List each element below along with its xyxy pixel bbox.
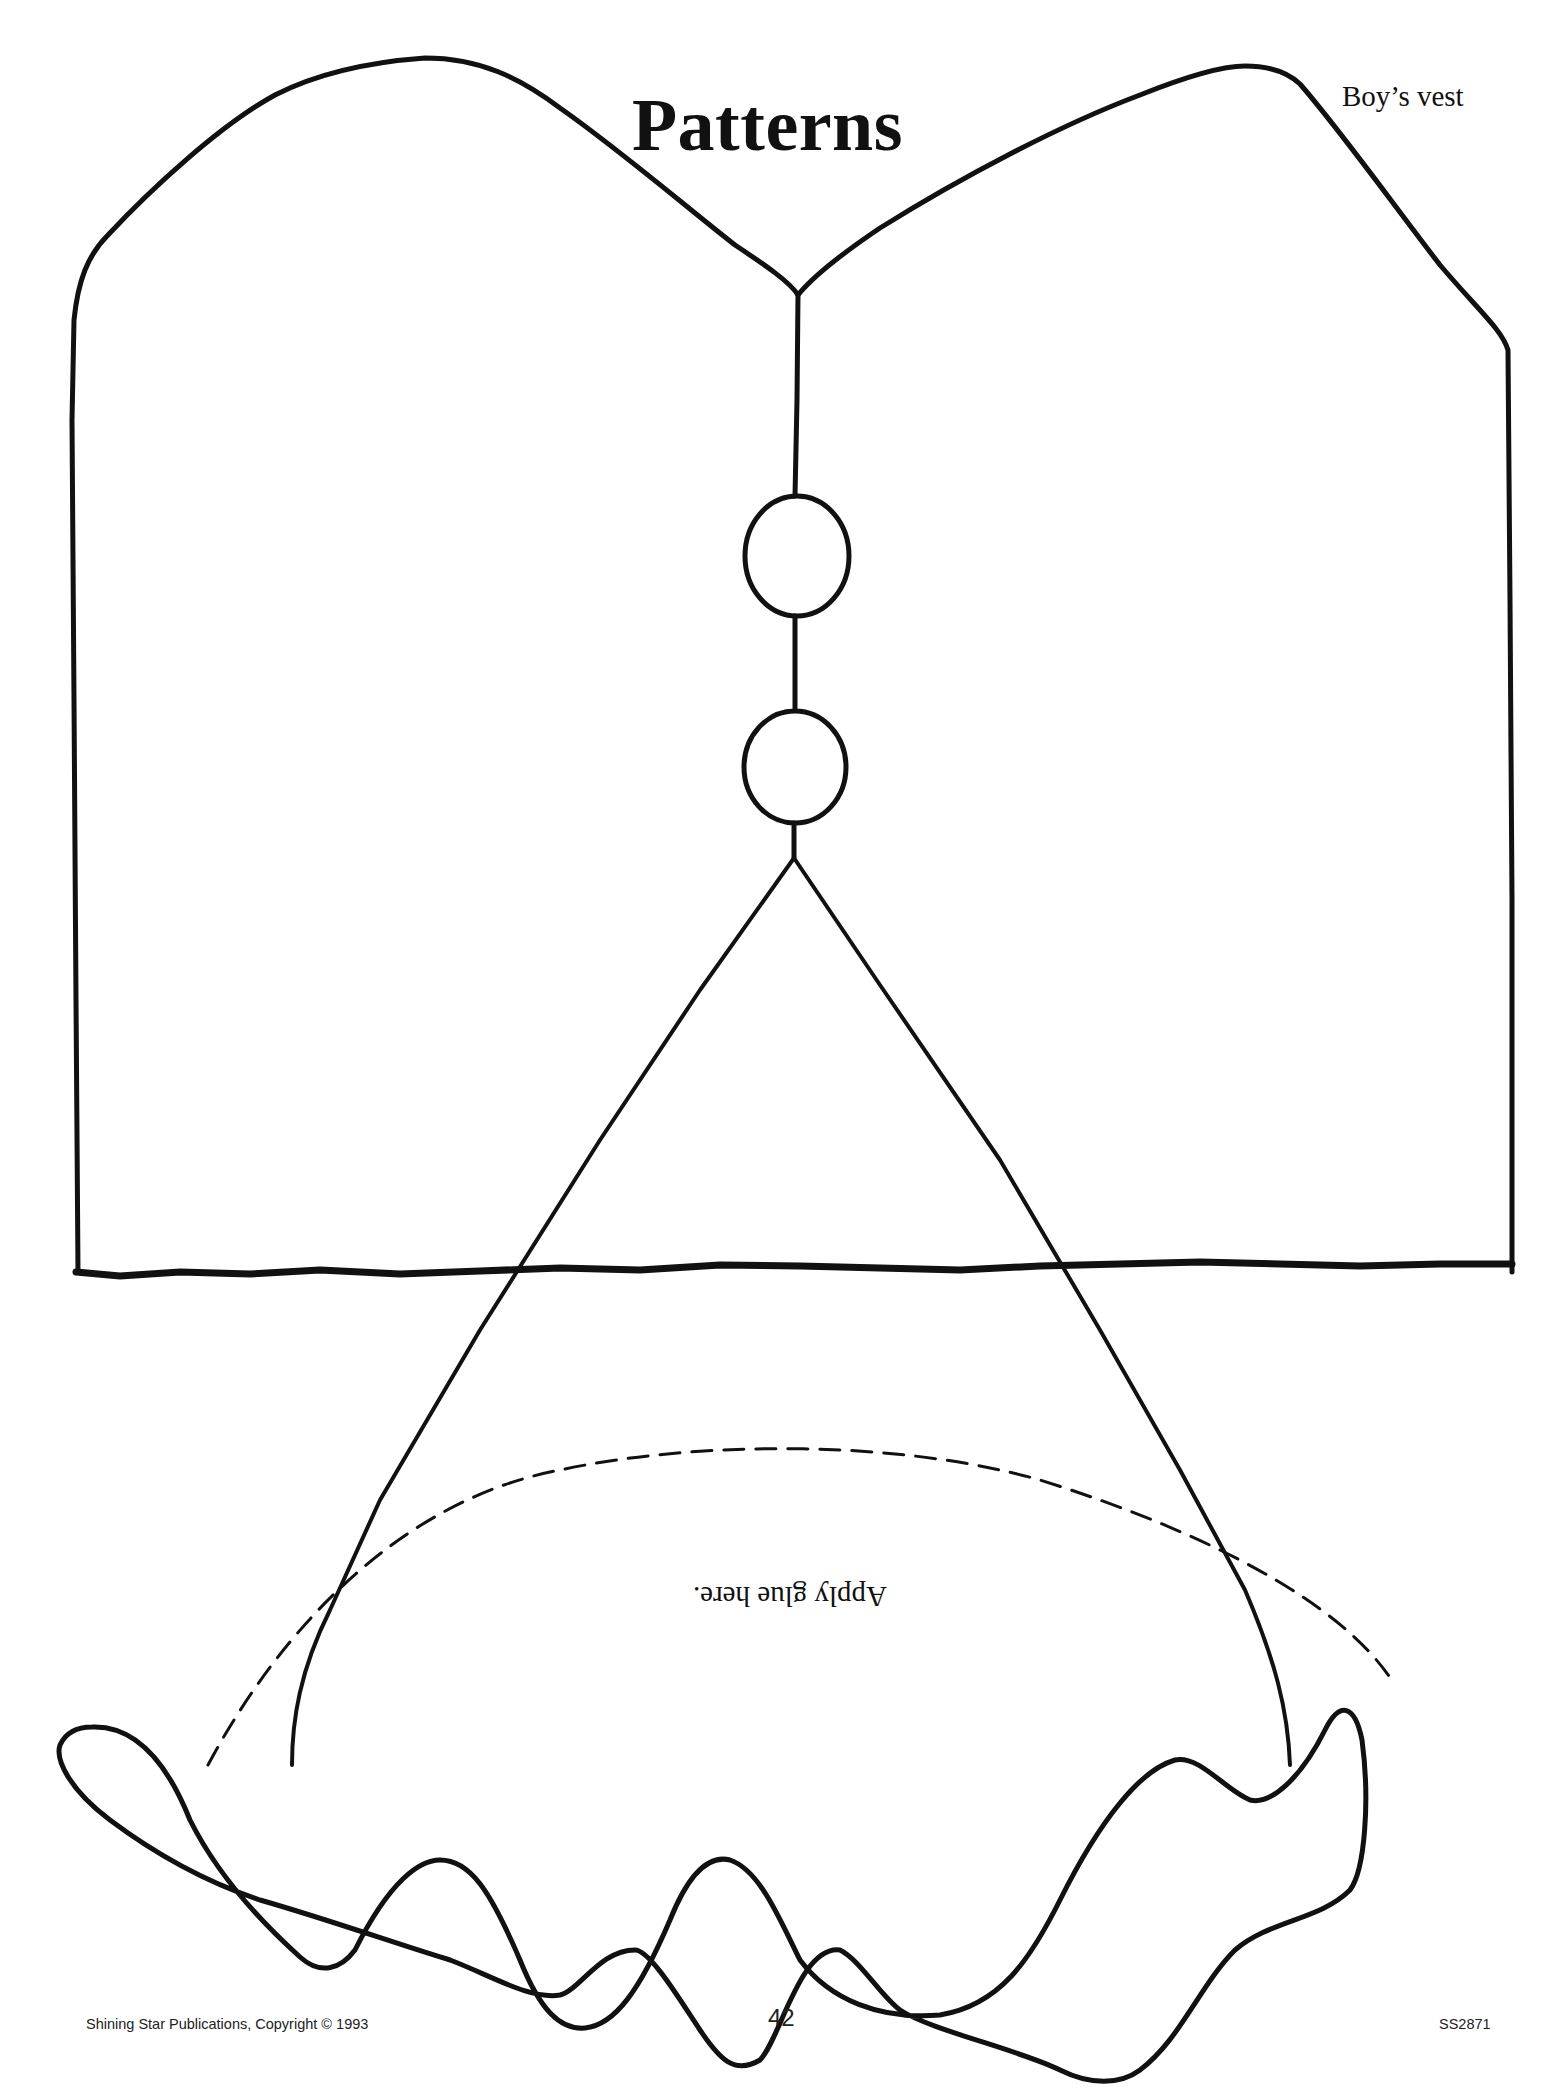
pattern-page: Patterns Boy’s vest Apply glue here. Shi… (0, 0, 1547, 2092)
vest-opening-left-edge (292, 858, 794, 1765)
vest-bottom-edge (76, 1262, 1512, 1276)
footer-publisher: Shining Star Publications, Copyright © 1… (86, 2016, 368, 2032)
button-top (745, 496, 849, 616)
page-number: 42 (768, 2004, 795, 2032)
footer-code: SS2871 (1439, 2016, 1491, 2032)
page-title: Patterns (0, 88, 1547, 162)
page-title-text: Patterns (632, 84, 903, 166)
glue-instruction: Apply glue here. (640, 1580, 940, 1613)
vest-pattern-drawing (0, 0, 1547, 2092)
center-front-line (795, 295, 798, 496)
vest-opening-right-edge (794, 858, 1290, 1765)
pattern-label: Boy’s vest (1342, 80, 1464, 113)
vest-outline (72, 58, 1512, 1272)
button-bottom (744, 711, 846, 823)
